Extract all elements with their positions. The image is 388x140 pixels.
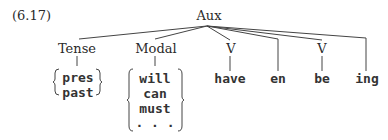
modal-option-ellipsis: . . . [135,116,174,129]
node-tense: Tense [58,42,96,55]
node-aux: Aux [196,9,221,22]
modal-option-can: can [143,87,166,100]
tense-option-pres: pres [62,71,93,84]
leaf-have: have [214,72,245,85]
tense-option-past: past [62,86,93,99]
node-modal: Modal [135,42,176,55]
leaf-ing: ing [355,72,378,85]
example-number: (6.17) [12,9,51,22]
leaf-en: en [270,72,286,85]
node-v-have: V [226,42,235,55]
tree-edges [0,0,388,140]
modal-option-must: must [139,102,170,115]
leaf-be: be [314,72,330,85]
node-v-be: V [317,42,326,55]
modal-option-will: will [139,72,170,85]
